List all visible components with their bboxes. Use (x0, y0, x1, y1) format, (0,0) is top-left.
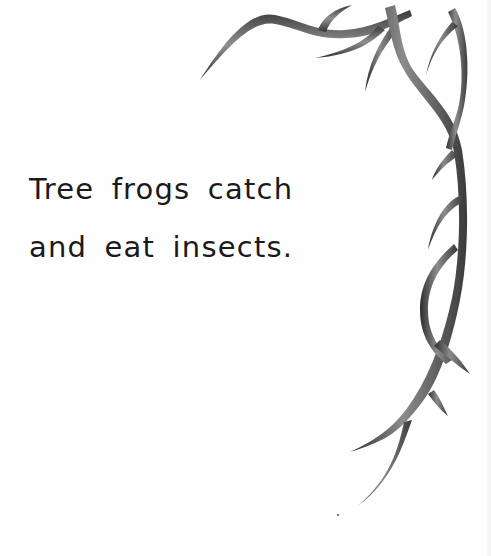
page-edge (487, 0, 491, 556)
book-page: Tree frogs catch and eat insects. (0, 0, 491, 556)
vine-thorn-mid-left-1 (432, 150, 458, 180)
vine-thorn-lower-right (428, 390, 448, 416)
vine-thorn-right-curve (426, 22, 458, 75)
vine-thorn-top-hook (318, 5, 352, 32)
thorny-vine-illustration (0, 0, 491, 556)
print-speck (337, 514, 339, 516)
vine-main-stem (350, 5, 467, 452)
story-text-line-1: Tree frogs catch (29, 160, 289, 218)
story-text-line-2: and eat insects. (29, 218, 289, 276)
story-text: Tree frogs catch and eat insects. (29, 160, 289, 276)
